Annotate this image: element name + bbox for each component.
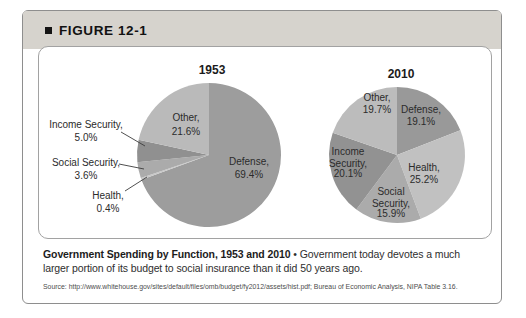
pie-1953-label-health: Health,0.4% <box>92 190 124 214</box>
figure-bullet-icon <box>45 27 52 34</box>
pie-2010-label-defense: Defense,19.1% <box>401 104 441 127</box>
figure-card: FIGURE 12-1 1953Defense,69.4%Health,0.4%… <box>22 10 502 304</box>
pie-2010-label-income-security: IncomeSecurity,20.1% <box>329 146 367 179</box>
figure-label: FIGURE 12-1 <box>59 23 147 38</box>
pie-title-1953: 1953 <box>199 63 226 77</box>
figure-header: FIGURE 12-1 <box>23 11 501 49</box>
pie-title-2010: 2010 <box>388 67 415 81</box>
pie-charts-canvas: 1953Defense,69.4%Health,0.4%Social Secur… <box>39 47 491 238</box>
page-background: FIGURE 12-1 1953Defense,69.4%Health,0.4%… <box>0 0 526 318</box>
pie-2010-label-other: Other,19.7% <box>363 92 391 115</box>
caption-title: Government Spending by Function, 1953 an… <box>43 248 290 260</box>
pie-2010-label-social-security: SocialSecurity,15.9% <box>372 186 410 219</box>
figure-caption: Government Spending by Function, 1953 an… <box>43 247 489 275</box>
pie-2010-label-health: Health,25.2% <box>408 162 440 185</box>
source-note: Source: http://www.whitehouse.gov/sites/… <box>43 283 493 290</box>
chart-panel: 1953Defense,69.4%Health,0.4%Social Secur… <box>38 46 492 239</box>
pie-1953-label-income-security: Income Security,5.0% <box>49 119 123 143</box>
pie-1953-label-social-security: Social Security,3.6% <box>52 157 120 181</box>
